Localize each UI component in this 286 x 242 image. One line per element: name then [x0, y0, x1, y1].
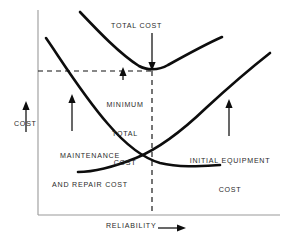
- cost-reliability-chart: TOTAL COST MINIMUM TOTAL COST MAINTENANC…: [0, 0, 286, 242]
- annotation-initial-equipment-line2: COST: [184, 186, 276, 196]
- annotation-minimum-total-cost-line1: MINIMUM: [99, 101, 151, 111]
- annotation-maintenance-line1: MAINTENANCE: [44, 152, 136, 162]
- annotation-initial-equipment-line1: INITIAL EQUIPMENT: [184, 157, 276, 167]
- maintenance-pointer-arrow-icon: [68, 94, 75, 103]
- y-axis-up-arrow-icon: [22, 101, 29, 110]
- x-axis-right-arrow-icon: [177, 224, 186, 231]
- x-axis-label: RELIABILITY: [106, 222, 156, 232]
- y-axis-label: COST: [14, 120, 37, 130]
- annotation-maintenance-and-repair-cost: MAINTENANCE AND REPAIR COST: [44, 133, 136, 210]
- annotation-maintenance-line2: AND REPAIR COST: [44, 181, 136, 191]
- initial-equipment-pointer-arrow-icon: [225, 99, 232, 108]
- annotation-total-cost: TOTAL COST: [111, 22, 162, 32]
- total-cost-curve: [80, 12, 222, 69]
- annotation-initial-equipment-cost: INITIAL EQUIPMENT COST: [184, 138, 276, 215]
